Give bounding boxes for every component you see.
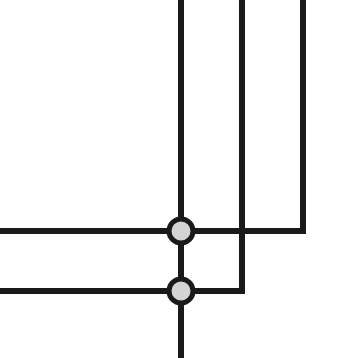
- lower-junction-node[interactable]: [169, 279, 193, 303]
- wire-junction-diagram: [0, 0, 357, 358]
- upper-junction-node[interactable]: [169, 219, 193, 243]
- schematic-canvas: [0, 0, 357, 358]
